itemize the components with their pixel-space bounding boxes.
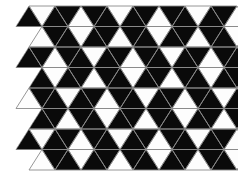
tessellation-figure <box>0 0 238 179</box>
figure-root <box>0 0 238 179</box>
